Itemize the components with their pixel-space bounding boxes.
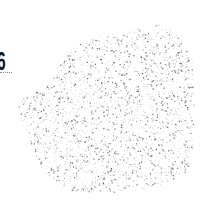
- stipple-noise-cloud: [0, 0, 214, 205]
